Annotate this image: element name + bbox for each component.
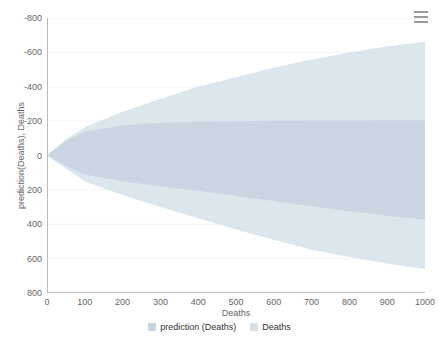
x-axis-tick-label: 200 [115,297,130,307]
legend-item-label: prediction (Deaths) [160,322,236,332]
x-axis-tick-labels: 01002003004005006007008009001000 [0,0,439,346]
x-axis-tick-label: 500 [228,297,243,307]
legend-item[interactable]: prediction (Deaths) [148,322,236,332]
x-axis-tick-label: 0 [44,297,49,307]
x-axis-tick-label: 1000 [415,297,435,307]
x-axis-title: Deaths [47,308,425,318]
chart-legend: prediction (Deaths)Deaths [0,322,439,332]
x-axis-tick-label: 700 [304,297,319,307]
legend-item-label: Deaths [262,322,291,332]
x-axis-tick-label: 900 [380,297,395,307]
x-axis-tick-label: 300 [153,297,168,307]
square-swatch-icon [250,323,258,331]
legend-item[interactable]: Deaths [250,322,291,332]
x-axis-tick-label: 600 [266,297,281,307]
x-axis-tick-label: 800 [342,297,357,307]
x-axis-tick-label: 400 [191,297,206,307]
x-axis-tick-label: 100 [77,297,92,307]
chart-container: prediction(Deaths), Deaths 8006004002000… [0,0,439,346]
square-swatch-icon [148,323,156,331]
